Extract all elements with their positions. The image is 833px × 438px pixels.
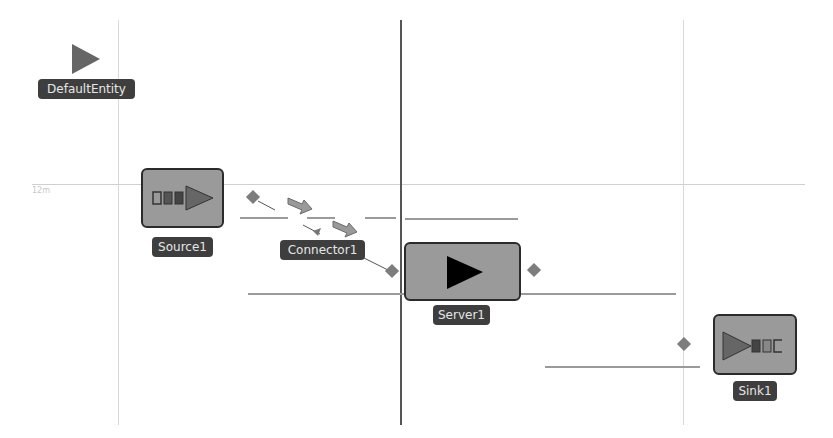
- sink-icon: [715, 316, 799, 377]
- connector-label[interactable]: Connector1: [280, 240, 365, 260]
- sink-node[interactable]: [713, 314, 797, 375]
- default-entity-label[interactable]: DefaultEntity: [38, 79, 135, 99]
- source-icon: [143, 170, 226, 230]
- server-node[interactable]: [404, 242, 521, 301]
- server-label[interactable]: Server1: [433, 305, 490, 325]
- source-label[interactable]: Source1: [152, 237, 213, 257]
- sink-label[interactable]: Sink1: [733, 381, 777, 401]
- default-entity-triangle-icon: [0, 0, 833, 438]
- source-node[interactable]: [141, 168, 224, 228]
- server-play-icon: [406, 244, 523, 303]
